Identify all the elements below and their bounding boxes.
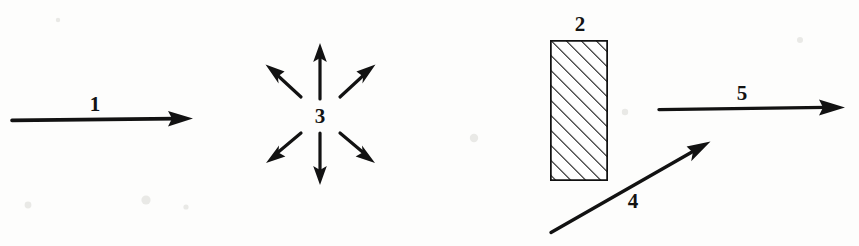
- hatched-rectangle-2: 2: [552, 12, 607, 180]
- rectangle-hatching: [552, 42, 607, 180]
- burst-ray-upper-left-shaft: [275, 73, 301, 97]
- label-2: 2: [575, 12, 586, 36]
- label-1: 1: [90, 92, 101, 116]
- label-3: 3: [315, 104, 326, 128]
- burst-ray-lower-right: [340, 133, 375, 163]
- burst-3: 3: [266, 43, 376, 185]
- figure-drawing: 1: [0, 0, 859, 246]
- arrow-5: 5: [659, 81, 845, 116]
- paper-texture: [25, 18, 803, 210]
- burst-ray-down: [313, 133, 327, 185]
- burst-ray-lower-left-shaft: [276, 133, 301, 154]
- arrow-1: 1: [12, 92, 193, 127]
- label-5: 5: [737, 81, 748, 105]
- burst-ray-upper-left: [266, 65, 302, 98]
- burst-ray-upper-right: [340, 65, 376, 98]
- burst-ray-up: [313, 43, 327, 99]
- burst-ray-upper-right-shaft: [340, 73, 366, 97]
- burst-ray-lower-right-shaft: [340, 133, 365, 154]
- burst-ray-lower-left: [266, 133, 301, 163]
- label-4: 4: [628, 189, 639, 213]
- figure-canvas: 1: [0, 0, 859, 246]
- arrow-5-shaft: [659, 107, 826, 109]
- arrow-1-shaft: [12, 119, 176, 121]
